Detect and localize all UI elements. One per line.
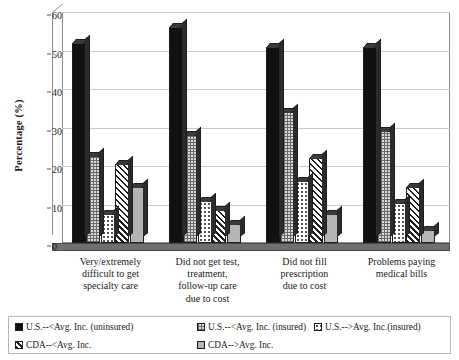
legend-item[interactable]: U.S.--<Avg. Inc. (uninsured) <box>15 322 133 332</box>
diagonal-swatch-icon <box>15 341 23 349</box>
bar-side-face <box>279 38 284 237</box>
bar-side-face <box>322 150 327 237</box>
legend-label: U.S.-->Avg. Inc.(insured) <box>325 322 421 332</box>
solid-black-swatch-icon <box>15 323 23 331</box>
bar-side-face <box>114 206 119 237</box>
bar-side-face <box>405 194 410 237</box>
bar-side-face <box>390 123 395 237</box>
bar-side-face <box>419 179 424 237</box>
legend-label: CDA-->Avg. Inc. <box>208 340 273 350</box>
chart-legend: U.S.--<Avg. Inc. (uninsured)U.S.--<Avg. … <box>8 316 451 354</box>
y-tick-mark <box>47 92 51 93</box>
y-tick-mark <box>47 207 51 208</box>
x-axis-category-label: Problems payingmedical bills <box>343 256 459 280</box>
plot-area: 0102030405060 <box>52 12 450 251</box>
bar-side-face <box>85 35 90 237</box>
bar-side-face <box>434 221 439 237</box>
bar-solid-black <box>72 43 86 243</box>
bar-side-face <box>337 206 342 237</box>
y-tick-mark <box>47 246 51 247</box>
y-tick-mark <box>47 15 51 16</box>
light-gray-swatch-icon <box>197 341 205 349</box>
bar-solid-black <box>363 47 377 243</box>
legend-item[interactable]: CDA-->Avg. Inc. <box>197 340 273 350</box>
bar-side-face <box>99 148 104 237</box>
bar-side-face <box>211 192 216 237</box>
bar-solid-black <box>169 27 183 243</box>
bar-side-face <box>293 104 298 237</box>
axis-floor <box>52 243 450 251</box>
bar-group <box>353 12 450 243</box>
bar-chart: Percentage (%) 0102030405060 Very/extrem… <box>0 0 459 360</box>
bar-side-face <box>128 156 133 237</box>
y-tick-mark <box>47 53 51 54</box>
bar-side-face <box>240 216 245 237</box>
legend-label: U.S.--<Avg. Inc. (uninsured) <box>26 322 133 332</box>
bar-side-face <box>308 173 313 237</box>
legend-item[interactable]: U.S.-->Avg. Inc.(insured) <box>314 322 421 332</box>
legend-label: CDA--<Avg. Inc. <box>26 340 91 350</box>
dotted-swatch-icon <box>314 323 322 331</box>
legend-label: U.S.--<Avg. Inc. (insured) <box>208 322 306 332</box>
y-tick-mark <box>47 130 51 131</box>
y-axis-title: Percentage (%) <box>13 66 24 206</box>
bars-layer <box>62 12 450 243</box>
bar-side-face <box>182 19 187 237</box>
legend-item[interactable]: U.S.--<Avg. Inc. (insured) <box>197 322 306 332</box>
bar-side-face <box>225 202 230 237</box>
legend-row: CDA--<Avg. Inc.CDA-->Avg. Inc. <box>9 336 450 354</box>
x-axis-category-labels: Very/extremelydifficult to getspecialty … <box>62 256 450 312</box>
bar-solid-black <box>266 47 280 243</box>
bar-group <box>62 12 159 243</box>
legend-item[interactable]: CDA--<Avg. Inc. <box>15 340 91 350</box>
bar-side-face <box>196 127 201 237</box>
y-tick-mark <box>47 169 51 170</box>
checkered-swatch-icon <box>197 323 205 331</box>
bar-group <box>256 12 353 243</box>
bar-side-face <box>143 179 148 237</box>
legend-row: U.S.--<Avg. Inc. (uninsured)U.S.--<Avg. … <box>9 318 450 336</box>
bar-side-face <box>376 38 381 237</box>
bar-group <box>159 12 256 243</box>
